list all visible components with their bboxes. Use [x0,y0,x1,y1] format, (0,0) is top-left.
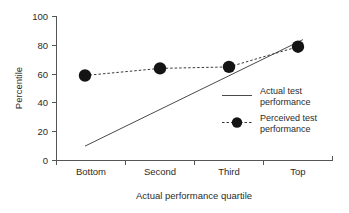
legend-label-actual-line1: Actual test [260,86,303,96]
y-tick-label-80: 80 [37,40,48,51]
legend-label-actual-line2: performance [260,97,311,107]
x-axis-title: Actual performance quartile [136,190,252,201]
x-tick-label-second: Second [144,166,176,177]
y-axis-title: Percentile [13,67,24,109]
legend-label-perceived-line1: Perceived test [260,113,318,123]
perceived-point-second [154,62,166,74]
perceived-point-third [223,61,235,73]
x-tick-label-top: Top [290,166,305,177]
chart-figure: 100 80 60 40 20 0 Percentile Bottom Seco… [0,0,349,213]
filled-circle-marker-icon [232,117,242,127]
y-tick-label-100: 100 [32,11,48,22]
perceived-point-top [292,41,304,53]
x-tick-label-third: Third [218,166,240,177]
y-tick-label-60: 60 [37,69,48,80]
chart-canvas: 100 80 60 40 20 0 Percentile Bottom Seco… [0,0,349,213]
y-tick-label-20: 20 [37,126,48,137]
y-tick-label-0: 0 [43,155,48,166]
perceived-point-bottom [79,69,91,81]
legend-label-perceived-line2: performance [260,124,311,134]
x-tick-label-bottom: Bottom [76,166,106,177]
y-tick-label-40: 40 [37,97,48,108]
